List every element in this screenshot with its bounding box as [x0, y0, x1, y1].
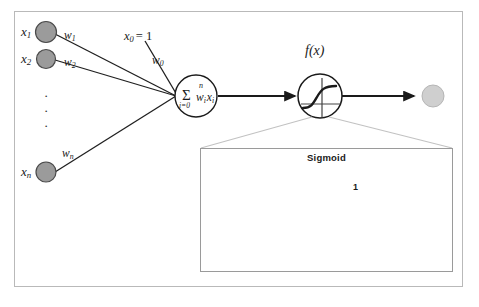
- input-label-x1: x1: [21, 25, 31, 40]
- figure-canvas: Sigmoid 1 x1 x2 xn w1 w2 wn · · · x0= 1 …: [0, 0, 479, 307]
- activation-label: f(x): [305, 44, 324, 58]
- input-node-x1: [36, 22, 57, 43]
- bias-weight-label-w0-sub: 0: [160, 59, 164, 68]
- activation-node: [298, 74, 342, 118]
- summation-term-sub-2: i: [212, 96, 214, 105]
- inset-y-tick-label: 1: [353, 182, 358, 192]
- weight-label-w2-sub: 2: [72, 61, 76, 70]
- output-node: [422, 85, 444, 107]
- bias-label-x0: x0= 1: [124, 30, 152, 44]
- bias-weight-label-w0: w0: [152, 55, 164, 68]
- ellipsis-dot-2: ·: [44, 103, 48, 118]
- input-label-x2: x2: [21, 52, 31, 67]
- weight-label-w1-sub: 1: [72, 34, 76, 43]
- weight-label-wn: wn: [62, 148, 74, 161]
- summation-term-sub-1: i: [204, 96, 206, 105]
- weight-label-w1: w1: [64, 30, 76, 43]
- input-label-xn-sub: n: [27, 170, 31, 180]
- input-node-x2: [37, 50, 56, 69]
- input-node-xn: [36, 162, 56, 182]
- bias-label-x0-sub: 0: [130, 34, 134, 44]
- input-ellipsis: · · ·: [44, 88, 48, 133]
- callout-connector-lines: [201, 117, 452, 148]
- bias-value-text: = 1: [136, 29, 152, 43]
- inset-title: Sigmoid: [201, 152, 452, 163]
- ellipsis-dot-3: ·: [44, 118, 48, 133]
- input-label-x2-sub: 2: [27, 57, 31, 67]
- summation-expression: n Σ i=0 wixi: [178, 82, 224, 112]
- sigmoid-inset-panel: Sigmoid 1: [200, 148, 453, 272]
- ellipsis-dot-1: ·: [44, 88, 48, 103]
- weight-label-w2: w2: [64, 57, 76, 70]
- summation-lower-limit: i=0: [179, 102, 190, 110]
- input-label-xn: xn: [21, 165, 31, 180]
- input-label-x1-sub: 1: [27, 30, 31, 40]
- weight-label-wn-sub: n: [70, 152, 74, 161]
- summation-term: wixi: [196, 92, 214, 105]
